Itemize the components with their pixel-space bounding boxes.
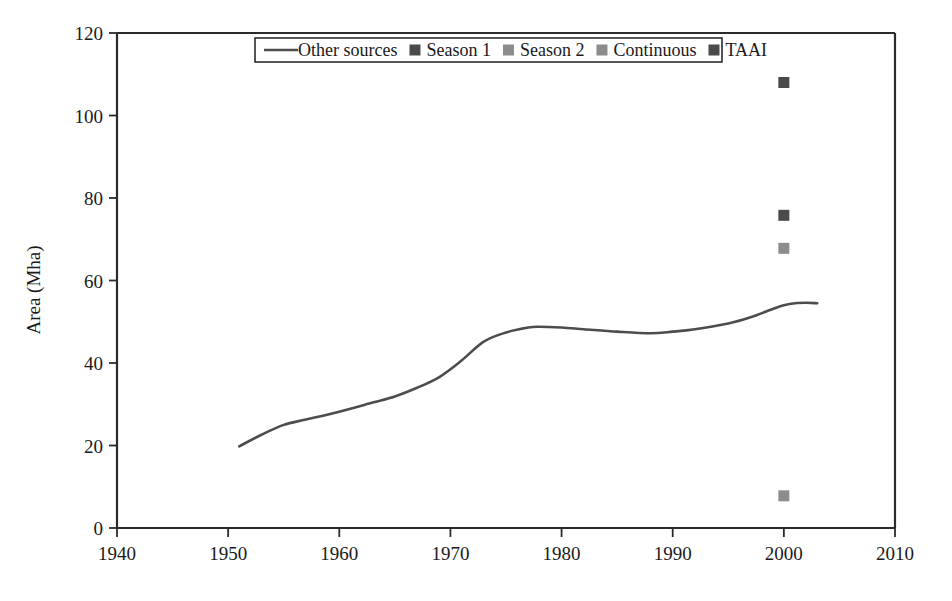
axes-frame xyxy=(117,33,895,528)
x-tick-label-1980: 1980 xyxy=(543,543,581,564)
x-tick-label-1950: 1950 xyxy=(209,543,247,564)
x-tick-label-1940: 1940 xyxy=(98,543,136,564)
marker-season-2 xyxy=(778,243,789,254)
x-tick-label-1970: 1970 xyxy=(431,543,469,564)
y-tick-label-80: 80 xyxy=(84,188,103,209)
legend-label: TAAI xyxy=(725,40,767,60)
chart-legend: Other sourcesSeason 1Season 2ContinuousT… xyxy=(255,38,767,62)
x-tick-label-2010: 2010 xyxy=(876,543,914,564)
area-line-chart: 020406080100120 194019501960197019801990… xyxy=(0,0,952,601)
legend-label: Continuous xyxy=(613,40,696,60)
x-axis-ticks: 19401950196019701980199020002010 xyxy=(98,528,914,564)
x-tick-label-1990: 1990 xyxy=(654,543,692,564)
legend-label: Season 1 xyxy=(426,40,491,60)
y-tick-label-100: 100 xyxy=(75,106,104,127)
marker-taai xyxy=(778,77,789,88)
legend-square-swatch xyxy=(708,45,719,56)
legend-square-swatch xyxy=(503,45,514,56)
y-tick-label-60: 60 xyxy=(84,271,103,292)
legend-square-swatch xyxy=(596,45,607,56)
y-axis-ticks: 020406080100120 xyxy=(75,23,118,539)
legend-square-swatch xyxy=(409,45,420,56)
series-other-sources xyxy=(239,303,817,447)
line-path-other-sources xyxy=(239,303,817,447)
marker-season-1 xyxy=(778,210,789,221)
x-tick-label-1960: 1960 xyxy=(320,543,358,564)
x-tick-label-2000: 2000 xyxy=(765,543,803,564)
legend-label: Season 2 xyxy=(520,40,585,60)
chart-container: 020406080100120 194019501960197019801990… xyxy=(0,0,952,601)
legend-label: Other sources xyxy=(298,40,397,60)
scatter-markers-group xyxy=(778,77,789,501)
y-tick-label-40: 40 xyxy=(84,353,103,374)
marker-continuous xyxy=(778,490,789,501)
y-tick-label-20: 20 xyxy=(84,436,103,457)
y-axis-title: Area (Mha) xyxy=(23,245,45,334)
y-tick-label-120: 120 xyxy=(75,23,104,44)
y-tick-label-0: 0 xyxy=(94,518,104,539)
